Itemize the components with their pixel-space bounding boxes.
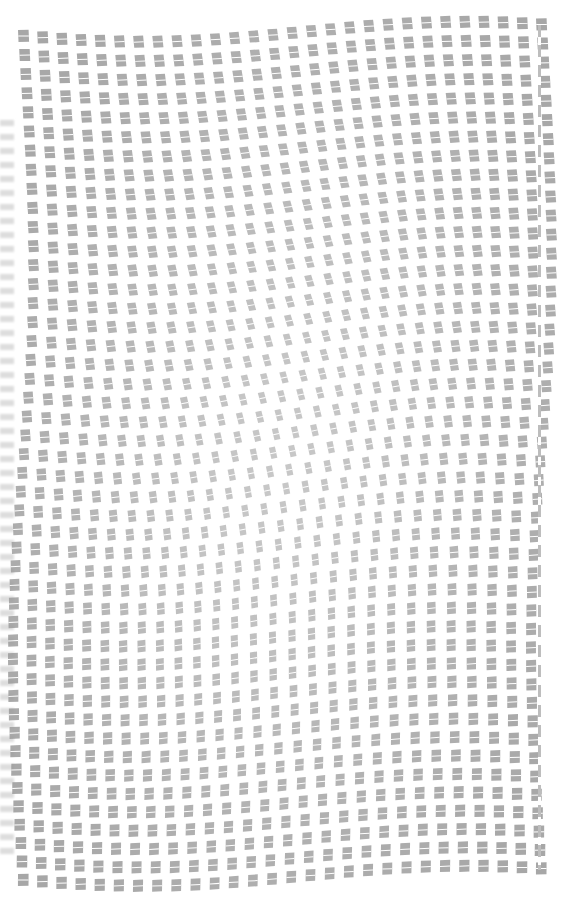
tile-grid <box>0 0 570 905</box>
right-edge-strip <box>538 25 541 870</box>
